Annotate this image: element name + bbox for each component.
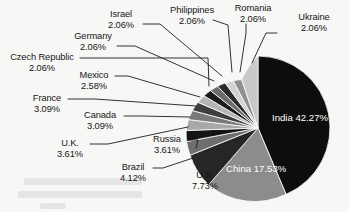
pie-label-brazil-value: 4.12% <box>113 173 153 184</box>
pie-label-russia: Russia 3.61% <box>146 134 188 155</box>
pie-label-ukraine-value: 2.06% <box>288 23 340 34</box>
pie-label-mexico: Mexico 2.58% <box>73 70 115 91</box>
pie-label-russia-value: 3.61% <box>146 145 188 156</box>
pie-label-mexico-name: Mexico <box>73 70 115 81</box>
pie-label-romania: Romania 2.06% <box>226 3 280 24</box>
pie-chart-figure: Israel 2.06% Philippines 2.06% Romania 2… <box>0 0 349 212</box>
pie-label-philippines-value: 2.06% <box>158 16 226 27</box>
pie-label-us-value: 7.73% <box>186 181 224 192</box>
pie-label-czech-republic: Czech Republic 2.06% <box>3 52 81 73</box>
leader-line-israel <box>143 24 222 76</box>
pie-label-canada-name: Canada <box>76 110 124 121</box>
pie-label-china-value: 17.53% <box>254 163 287 174</box>
pie-label-brazil-name: Brazil <box>113 162 153 173</box>
pie-label-india: India 42.27% <box>272 112 324 123</box>
leader-line-france <box>68 99 196 106</box>
pie-label-germany-name: Germany <box>68 31 118 42</box>
pie-label-russia-name: Russia <box>146 134 188 145</box>
pie-label-philippines: Philippines 2.06% <box>158 5 226 26</box>
leader-line-brazil <box>153 158 193 168</box>
pie-label-mexico-value: 2.58% <box>73 81 115 92</box>
pie-label-israel-value: 2.06% <box>99 20 143 31</box>
pie-label-france: France 3.09% <box>26 93 68 114</box>
leader-line-canada <box>124 116 190 117</box>
leader-line-philippines <box>213 20 232 72</box>
pie-label-uk-name: U.K. <box>50 138 90 149</box>
pie-label-israel: Israel 2.06% <box>99 9 143 30</box>
pie-label-czech-republic-name: Czech Republic <box>3 52 81 63</box>
leader-line-germany <box>117 46 214 81</box>
pie-label-us-name: U.S. <box>186 170 224 181</box>
pie-label-germany: Germany 2.06% <box>68 31 118 52</box>
pie-label-romania-value: 2.06% <box>226 14 280 25</box>
leader-line-romania <box>240 24 246 72</box>
pie-label-france-name: France <box>26 93 68 104</box>
pie-label-ukraine: Ukraine 2.06% <box>288 12 340 33</box>
pie-label-uk-value: 3.61% <box>50 149 90 160</box>
pie-label-uk: U.K. 3.61% <box>50 138 90 159</box>
leader-line-mexico <box>115 76 200 97</box>
pie-label-china-name: China <box>226 163 251 174</box>
pie-label-israel-name: Israel <box>99 9 143 20</box>
pie-label-czech-republic-value: 2.06% <box>3 63 81 74</box>
pie-label-romania-name: Romania <box>226 3 280 14</box>
pie-label-philippines-name: Philippines <box>158 5 226 16</box>
pie-label-ukraine-name: Ukraine <box>288 12 340 23</box>
pie-label-brazil: Brazil 4.12% <box>113 162 153 183</box>
pie-label-france-value: 3.09% <box>26 104 68 115</box>
pie-label-china: China 17.53% <box>226 163 278 174</box>
pie-label-india-name: India <box>272 112 293 123</box>
pie-label-germany-value: 2.06% <box>68 42 118 53</box>
pie-label-canada-value: 3.09% <box>76 121 124 132</box>
pie-label-india-value: 42.27% <box>295 112 328 123</box>
pie-label-canada: Canada 3.09% <box>76 110 124 131</box>
pie-label-us: U.S. 7.73% <box>186 170 224 191</box>
